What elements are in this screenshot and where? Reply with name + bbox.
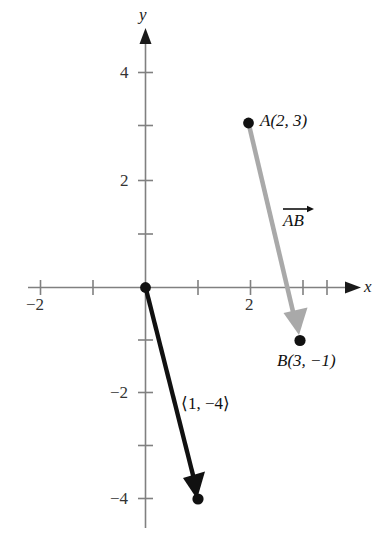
point-a-label: A(2, 3) (260, 112, 307, 129)
component-vector-label: ⟨1, −4⟩ (181, 395, 230, 412)
x-axis-label: x (364, 278, 372, 295)
vector-arrow-overbar-icon (283, 203, 304, 212)
point-b-dot (294, 335, 305, 346)
vector-tip-dot (192, 493, 203, 504)
y-axis-label: y (139, 6, 147, 23)
coordinate-plane (0, 0, 387, 543)
vector-ab-label: AB (283, 203, 304, 229)
plotted-points (140, 118, 306, 505)
origin-point (140, 282, 151, 293)
x-tick-label-2: 2 (245, 296, 254, 313)
y-tick-label-2: 2 (120, 172, 129, 189)
axis-lines (28, 28, 361, 528)
y-axis-arrowhead (140, 28, 152, 44)
point-a-dot (243, 118, 254, 129)
y-tick-label--2: −2 (110, 384, 128, 401)
x-axis-arrowhead (345, 282, 361, 294)
vector-ab (249, 125, 308, 335)
y-tick-label--4: −4 (110, 490, 128, 507)
vector-diagram-figure: x y −2 2 4 2 −2 −4 A(2, 3) B(3, −1) AB ⟨… (0, 0, 387, 543)
y-tick-label-4: 4 (120, 64, 129, 81)
vector-ab-arrowhead (284, 308, 308, 336)
vector-component-shaft (146, 289, 195, 483)
point-b-label: B(3, −1) (277, 352, 336, 369)
x-tick-label--2: −2 (26, 296, 44, 313)
